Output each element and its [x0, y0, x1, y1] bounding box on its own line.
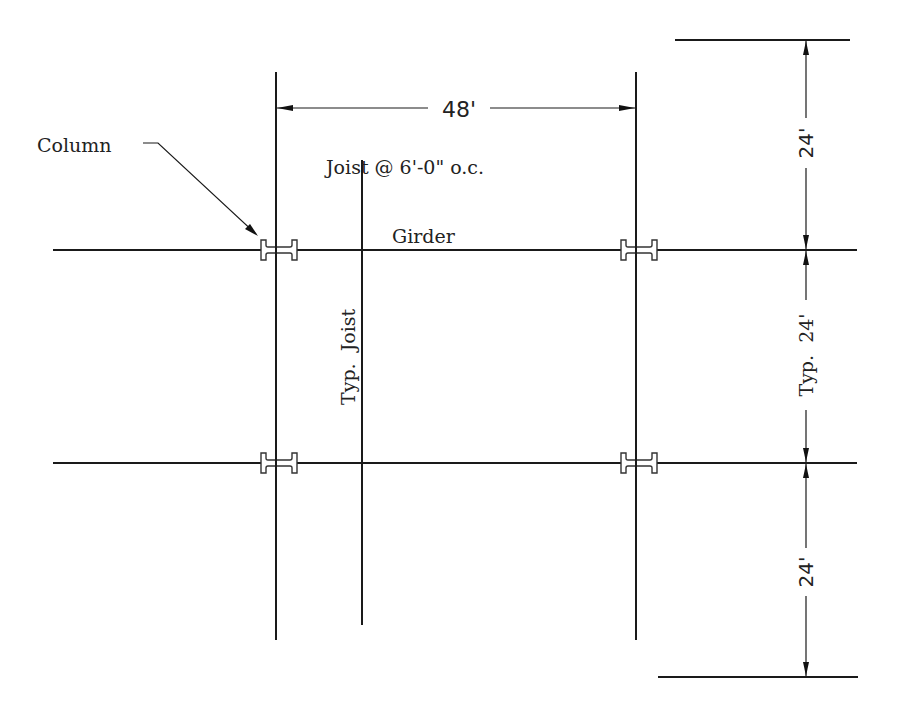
dimension-24-bottom-label: 24': [794, 557, 818, 588]
column-top-right: [621, 238, 657, 262]
vertical-dimensions: 24' Typ. 24' 24': [658, 40, 858, 677]
column-top-left: [261, 238, 297, 262]
dimension-48-label: 48': [442, 97, 476, 122]
dimension-24-top-label: 24': [794, 128, 818, 159]
framing-plan-drawing: 48' Joist @ 6'-0" o.c. Column Girder Typ…: [0, 0, 899, 722]
typ-joist-label: Typ. Joist: [337, 308, 359, 405]
joist-spacing-label: Joist @ 6'-0" o.c.: [324, 156, 484, 178]
dimension-typ-24-label: Typ. 24': [795, 313, 817, 396]
column-bottom-right: [621, 451, 657, 475]
column-bottom-left: [261, 451, 297, 475]
column-leader: [143, 143, 258, 236]
column-label: Column: [37, 134, 112, 156]
girder-label: Girder: [392, 225, 456, 247]
arrow-right-icon: [619, 105, 635, 111]
arrow-left-icon: [277, 105, 293, 111]
dimension-48ft: 48': [277, 97, 635, 122]
